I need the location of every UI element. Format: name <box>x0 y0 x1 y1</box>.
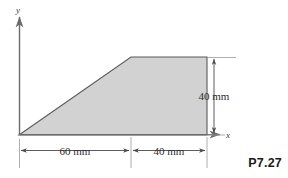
base-right-dimension-label: 40 mm <box>154 145 185 157</box>
trapezoid-shape <box>19 57 207 135</box>
engineering-diagram: y x 40 mm 60 mm 40 mm <box>0 0 288 178</box>
x-axis-label: x <box>225 130 230 140</box>
base-left-dimension-label: 60 mm <box>60 145 91 157</box>
figure-container: y x 40 mm 60 mm 40 mm P7.27 <box>0 0 288 178</box>
y-axis-label: y <box>15 5 20 15</box>
height-dimension-label: 40 mm <box>199 90 230 102</box>
figure-id-label: P7.27 <box>248 156 282 170</box>
